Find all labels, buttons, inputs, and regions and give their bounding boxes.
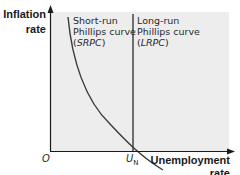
y-axis-arrow-icon xyxy=(48,5,54,13)
x-axis-title: Unemployment rate xyxy=(150,154,230,175)
y-axis-title-line2: rate xyxy=(2,23,46,35)
y-axis-title: Inflation rate xyxy=(2,8,46,35)
lrpc-label-line3: (LRPC) xyxy=(137,37,200,48)
un-label: UN xyxy=(126,153,139,169)
lrpc-label: Long-run Phillips curve (LRPC) xyxy=(137,15,200,48)
srpc-label-line2: Phillips curve xyxy=(73,26,136,37)
x-axis-title-line1: Unemployment xyxy=(150,154,230,166)
srpc-label-line3: (SRPC) xyxy=(73,37,136,48)
un-label-sub: N xyxy=(133,159,138,167)
srpc-abbr: SRPC xyxy=(77,37,102,48)
lrpc-abbr: LRPC xyxy=(141,37,165,48)
origin-label: O xyxy=(42,153,50,164)
x-axis-title-line2: rate xyxy=(150,167,230,175)
srpc-label: Short-run Phillips curve (SRPC) xyxy=(73,15,136,48)
lrpc-label-line1: Long-run xyxy=(137,15,200,26)
y-axis-title-line1: Inflation xyxy=(2,8,46,20)
srpc-label-line1: Short-run xyxy=(73,15,136,26)
lrpc-label-line2: Phillips curve xyxy=(137,26,200,37)
